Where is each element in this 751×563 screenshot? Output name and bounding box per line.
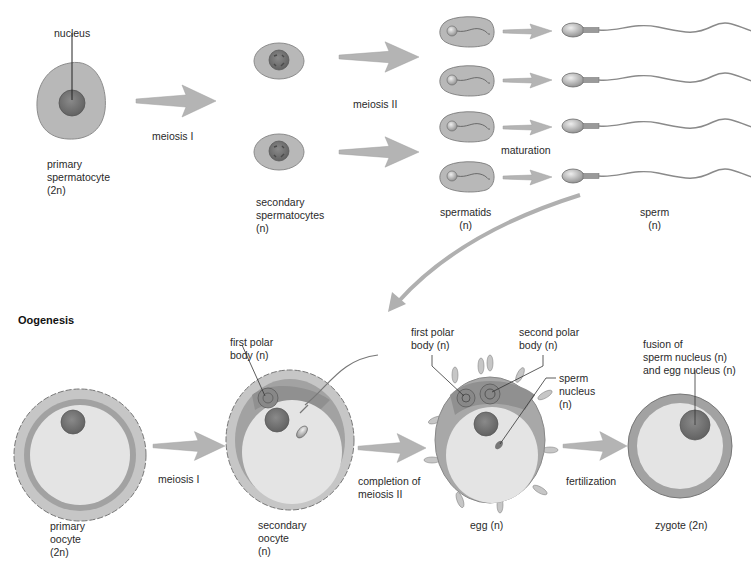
secondary-spermatocyte-bottom xyxy=(254,134,304,170)
zygote-cell xyxy=(628,370,732,498)
primary-spermatocyte-label: primary spermatocyte (2n) xyxy=(47,158,110,197)
meiosis-i-label: meiosis I xyxy=(152,130,193,143)
maturation-label: maturation xyxy=(501,144,551,157)
primary-oocyte-label: primary oocyte (2n) xyxy=(50,520,85,559)
oogenesis-title: Oogenesis xyxy=(18,314,74,327)
completion-label: completion of meiosis II xyxy=(358,475,420,501)
nucleus-label: nucleus xyxy=(54,27,90,40)
fusion-label: fusion of sperm nucleus (n) and egg nucl… xyxy=(643,338,736,377)
sperm-nucleus-label: sperm nucleus (n) xyxy=(559,372,595,411)
secondary-oocyte-label: secondary oocyte (n) xyxy=(258,519,306,558)
meiosis-i-oocyte-label: meiosis I xyxy=(158,473,199,486)
meiosis-ii-label: meiosis II xyxy=(353,98,397,111)
fertilization-label: fertilization xyxy=(566,475,616,488)
zygote-label: zygote (2n) xyxy=(655,519,708,532)
first-polar-body-label-a: first polar body (n) xyxy=(230,336,273,362)
second-polar-body-label: second polar body (n) xyxy=(519,326,579,352)
secondary-spermatocyte-top xyxy=(254,43,304,79)
arrow-meiosis-ii-bottom xyxy=(339,137,419,167)
primary-spermatocyte-cell xyxy=(37,33,105,139)
spermatids-label: spermatids (n) xyxy=(440,206,491,232)
primary-oocyte-cell xyxy=(14,389,146,521)
secondary-spermatocytes-label: secondary spermatocytes (n) xyxy=(256,196,324,235)
arrow-meiosis-i-sperm xyxy=(136,85,216,117)
egg-label: egg (n) xyxy=(470,519,503,532)
secondary-oocyte-cell xyxy=(226,345,378,510)
egg-cell xyxy=(424,355,558,513)
arrow-meiosis-ii-top xyxy=(339,42,419,72)
first-polar-body-label-b: first polar body (n) xyxy=(411,326,454,352)
sperm-label: sperm (n) xyxy=(640,206,669,232)
